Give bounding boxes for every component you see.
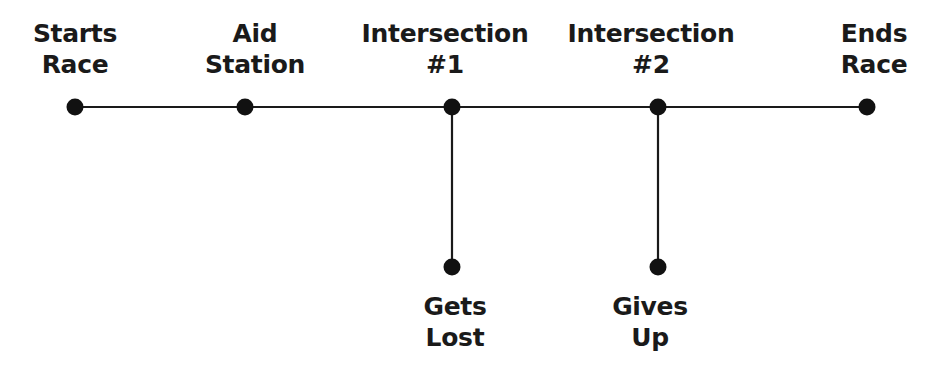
label-line: Station (205, 49, 305, 80)
label-intersection-2: Intersection#2 (568, 18, 735, 80)
label-line: Gives (612, 291, 688, 322)
label-line: Aid (205, 18, 305, 49)
node-dot-intersection-2 (650, 99, 667, 116)
label-line: Lost (423, 322, 486, 353)
label-ends-race: EndsRace (841, 18, 908, 80)
node-dots (67, 99, 876, 276)
connector-lines (75, 107, 867, 267)
label-line: Intersection (362, 18, 529, 49)
node-dot-starts-race (67, 99, 84, 116)
label-line: Intersection (568, 18, 735, 49)
label-line: #2 (568, 49, 735, 80)
node-dot-aid-station (237, 99, 254, 116)
node-dot-gets-lost (444, 259, 461, 276)
node-dot-gives-up (650, 259, 667, 276)
label-gives-up: GivesUp (612, 291, 688, 353)
label-line: Race (841, 49, 908, 80)
label-intersection-1: Intersection#1 (362, 18, 529, 80)
label-line: Up (612, 322, 688, 353)
label-line: Race (33, 49, 117, 80)
label-line: #1 (362, 49, 529, 80)
label-line: Starts (33, 18, 117, 49)
label-gets-lost: GetsLost (423, 291, 486, 353)
node-dot-intersection-1 (444, 99, 461, 116)
node-dot-ends-race (859, 99, 876, 116)
label-starts-race: StartsRace (33, 18, 117, 80)
label-aid-station: AidStation (205, 18, 305, 80)
label-line: Gets (423, 291, 486, 322)
label-line: Ends (841, 18, 908, 49)
